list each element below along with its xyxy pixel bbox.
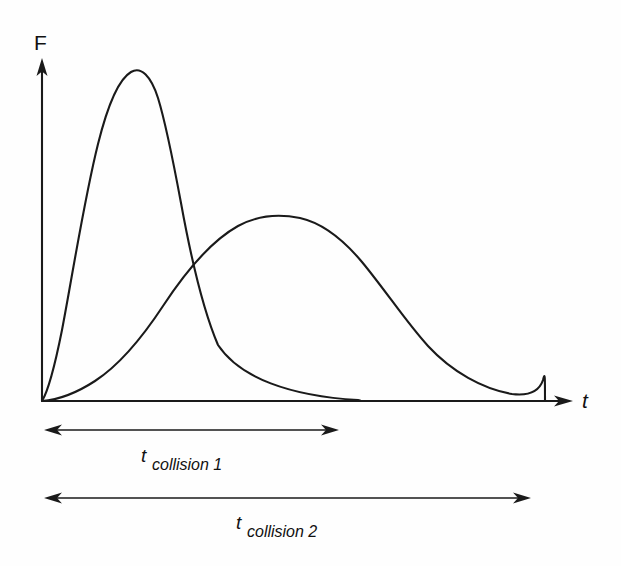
x-axis-label: t bbox=[582, 389, 589, 412]
collision-2-label-base: t bbox=[236, 512, 242, 533]
span-marker-collision-1: t collision 1 bbox=[44, 425, 339, 474]
curve-collision-1 bbox=[42, 70, 360, 401]
collision-1-label-base: t bbox=[141, 445, 147, 466]
figure-container: F t t collision 1 t collision 2 bbox=[0, 0, 621, 566]
span-marker-collision-2: t collision 2 bbox=[44, 493, 531, 541]
collision-1-label-subscript: collision 1 bbox=[152, 456, 222, 473]
y-axis-label: F bbox=[34, 31, 47, 54]
curve-collision-2 bbox=[42, 216, 545, 401]
collision-2-label-subscript: collision 2 bbox=[247, 523, 317, 540]
force-time-diagram: F t t collision 1 t collision 2 bbox=[0, 0, 621, 566]
